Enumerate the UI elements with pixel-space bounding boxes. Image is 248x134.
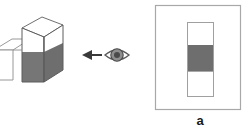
figure-container: a <box>0 0 248 134</box>
projected-view-panel <box>156 6 241 110</box>
bar-segment-middle <box>188 46 214 72</box>
viewpoint-indicator <box>82 49 129 61</box>
left-block-front-face <box>0 50 13 80</box>
cube-front-face-lower <box>22 52 44 82</box>
panel-label-a: a <box>188 113 212 128</box>
view-direction-arrow-head <box>82 50 92 60</box>
eye-pupil <box>114 52 120 58</box>
front-cube <box>22 17 63 82</box>
bar-segment-upper <box>188 23 214 46</box>
eye-symbol <box>105 49 129 61</box>
bar-segment-lower <box>188 72 214 97</box>
block-arrangement <box>0 17 63 82</box>
